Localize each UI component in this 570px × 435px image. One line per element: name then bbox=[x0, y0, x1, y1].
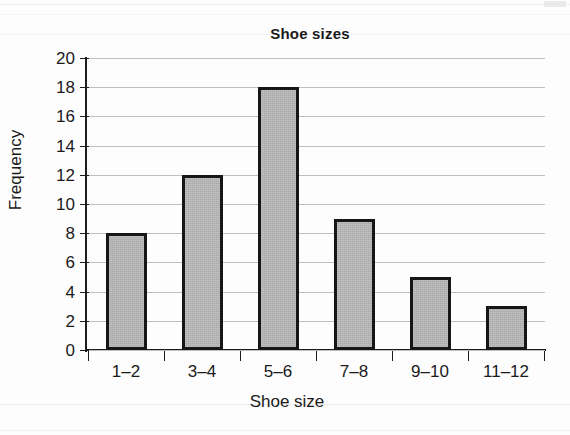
y-axis-tick-label: 10 bbox=[20, 204, 75, 205]
chart-title-text: Shoe sizes bbox=[270, 25, 350, 42]
x-axis-tick bbox=[88, 351, 89, 361]
y-axis-tick bbox=[80, 292, 89, 293]
gridline bbox=[88, 116, 545, 117]
chart-page: Shoe sizes 02468101214161820 1–23–45–67–… bbox=[0, 0, 570, 435]
y-axis-tick-label-text: 4 bbox=[66, 283, 75, 303]
x-axis-tick bbox=[316, 351, 317, 361]
gridline bbox=[88, 262, 545, 263]
y-axis-tick bbox=[80, 87, 89, 88]
y-axis-tick-label-text: 6 bbox=[66, 253, 75, 273]
y-axis-title: Frequency bbox=[6, 110, 26, 230]
y-axis-tick-label: 4 bbox=[20, 292, 75, 293]
x-axis-tick-label: 11–12 bbox=[461, 362, 551, 382]
y-axis-tick bbox=[80, 204, 89, 205]
bar bbox=[334, 219, 375, 350]
y-axis-tick-label-text: 14 bbox=[56, 137, 75, 157]
y-axis-tick-label: 16 bbox=[20, 116, 75, 117]
y-axis-tick-label-text: 18 bbox=[56, 78, 75, 98]
x-axis-title: Shoe size bbox=[87, 392, 487, 412]
gridline bbox=[88, 146, 545, 147]
y-axis-tick-label: 12 bbox=[20, 175, 75, 176]
gridline bbox=[88, 58, 545, 59]
scan-artifact-line bbox=[0, 4, 570, 5]
y-axis-tick-label-text: 10 bbox=[56, 195, 75, 215]
gridline bbox=[88, 175, 545, 176]
x-axis-tick bbox=[240, 351, 241, 361]
y-axis-tick-label: 6 bbox=[20, 262, 75, 263]
gridline bbox=[88, 87, 545, 88]
y-axis-tick-label-text: 16 bbox=[56, 107, 75, 127]
y-axis-tick-label: 20 bbox=[20, 58, 75, 59]
y-axis-tick-label: 14 bbox=[20, 146, 75, 147]
bar bbox=[106, 233, 147, 350]
y-axis-tick bbox=[80, 116, 89, 117]
bar bbox=[182, 175, 223, 350]
y-axis-tick bbox=[80, 321, 89, 322]
scan-artifact-line bbox=[0, 14, 570, 15]
y-axis-tick bbox=[80, 175, 89, 176]
gridline bbox=[88, 321, 545, 322]
y-axis-tick-label: 8 bbox=[20, 233, 75, 234]
y-axis-tick-label-text: 20 bbox=[56, 49, 75, 69]
x-axis-tick bbox=[544, 351, 545, 361]
y-axis-tick-label: 0 bbox=[20, 350, 75, 351]
y-axis-tick-label-text: 2 bbox=[66, 312, 75, 332]
y-axis-tick bbox=[80, 58, 89, 59]
gridline bbox=[88, 204, 545, 205]
bar bbox=[410, 277, 451, 350]
x-axis-tick bbox=[468, 351, 469, 361]
y-axis-tick-label: 2 bbox=[20, 321, 75, 322]
bar bbox=[486, 306, 527, 350]
y-axis-tick bbox=[80, 146, 89, 147]
scan-artifact-corner bbox=[544, 1, 566, 7]
x-axis-tick bbox=[164, 351, 165, 361]
y-axis-tick-label-text: 12 bbox=[56, 166, 75, 186]
bar bbox=[258, 87, 299, 350]
y-axis-tick-label: 18 bbox=[20, 87, 75, 88]
chart-title: Shoe sizes bbox=[0, 25, 570, 42]
x-axis-tick bbox=[392, 351, 393, 361]
y-axis-tick-label-text: 0 bbox=[66, 341, 75, 361]
plot-area bbox=[87, 58, 545, 350]
gridline bbox=[88, 292, 545, 293]
gridline bbox=[88, 233, 545, 234]
y-axis-tick bbox=[80, 233, 89, 234]
y-axis-tick bbox=[80, 262, 89, 263]
y-axis-tick-label-text: 8 bbox=[66, 224, 75, 244]
scan-artifact-line bbox=[0, 430, 570, 431]
